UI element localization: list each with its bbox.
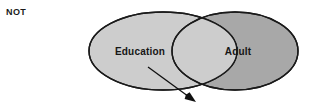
venn-diagram-canvas: Education Adult [0,0,319,106]
venn-label-adult: Adult [225,46,252,57]
venn-diagram-screenshot: NOT Education Adult [0,0,319,106]
venn-label-education: Education [115,46,165,57]
